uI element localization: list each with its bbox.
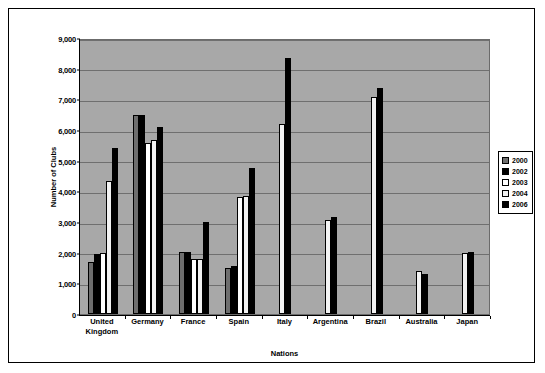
y-axis-tick-label: 0 (72, 311, 76, 320)
x-axis-category-brazil: Brazil (353, 317, 399, 327)
x-axis (79, 315, 490, 316)
chart-frame: Number of Clubs 01,0002,0003,0004,0005,0… (8, 8, 535, 363)
y-axis-tick-mark (77, 223, 80, 224)
bar-group-bars (400, 40, 446, 314)
bar-group (308, 40, 354, 314)
y-axis-tick-mark (77, 161, 80, 162)
plot-area (79, 39, 490, 315)
bar-group-bars (80, 40, 126, 314)
y-axis-tick-mark (77, 253, 80, 254)
legend-item-2006[interactable]: 2006 (502, 199, 528, 210)
bar-italy-2006 (285, 58, 291, 314)
chart-legend: 20002002200320042006 (498, 151, 533, 214)
x-axis-label: Nations (79, 349, 490, 358)
bar-group-bars (171, 40, 217, 314)
y-axis-tick-mark (77, 69, 80, 70)
x-axis-category-spain: Spain (216, 317, 262, 327)
legend-label-2002: 2002 (512, 168, 528, 175)
legend-swatch-2000 (502, 157, 509, 164)
y-axis-tick-label: 1,000 (58, 280, 76, 289)
x-axis-tick-mark (490, 316, 491, 319)
legend-item-2000[interactable]: 2000 (502, 155, 528, 166)
y-axis-tick-label: 2,000 (58, 249, 76, 258)
bar-group (126, 40, 172, 314)
legend-label-2003: 2003 (512, 179, 528, 186)
bar-germany-2006 (157, 127, 163, 314)
bar-group (80, 40, 126, 314)
legend-swatch-2006 (502, 201, 509, 208)
bar-group (354, 40, 400, 314)
y-axis-tick-mark (77, 100, 80, 101)
legend-label-2006: 2006 (512, 201, 528, 208)
legend-label-2000: 2000 (512, 157, 528, 164)
y-axis-tick-label: 6,000 (58, 127, 76, 136)
legend-label-2004: 2004 (512, 190, 528, 197)
bar-spain-2006 (249, 168, 255, 314)
bar-group-bars (263, 40, 309, 314)
legend-item-2003[interactable]: 2003 (502, 177, 528, 188)
y-axis-tick-mark (77, 131, 80, 132)
x-axis-category-united-kingdom: United Kingdom (79, 317, 125, 337)
y-axis-tick-label: 9,000 (58, 35, 76, 44)
y-axis-tick-mark (77, 39, 80, 40)
x-axis-category-argentina: Argentina (307, 317, 353, 327)
x-axis-category-germany: Germany (125, 317, 171, 327)
bar-brazil-2006 (377, 88, 383, 314)
y-axis-tick-label: 4,000 (58, 188, 76, 197)
y-axis-tick-label: 5,000 (58, 157, 76, 166)
bar-group-bars (308, 40, 354, 314)
y-axis-tick-mark (77, 284, 80, 285)
bar-argentina-2006 (331, 217, 337, 314)
bar-australia-2006 (422, 274, 428, 314)
legend-item-2004[interactable]: 2004 (502, 188, 528, 199)
x-axis-category-japan: Japan (444, 317, 490, 327)
bar-group-bars (217, 40, 263, 314)
bar-group (400, 40, 446, 314)
bar-group (217, 40, 263, 314)
x-axis-category-australia: Australia (399, 317, 445, 327)
x-axis-category-france: France (170, 317, 216, 327)
bar-group (263, 40, 309, 314)
bar-group-bars (445, 40, 491, 314)
bar-group-bars (354, 40, 400, 314)
legend-item-2002[interactable]: 2002 (502, 166, 528, 177)
y-axis-label: Number of Clubs (49, 147, 58, 207)
bar-france-2006 (203, 222, 209, 314)
y-axis-tick-label: 8,000 (58, 65, 76, 74)
y-axis-tick-label: 7,000 (58, 96, 76, 105)
legend-swatch-2002 (502, 168, 509, 175)
bar-group-bars (126, 40, 172, 314)
y-axis-tick-mark (77, 192, 80, 193)
y-axis-label-wrap: Number of Clubs (17, 39, 31, 315)
y-axis: 01,0002,0003,0004,0005,0006,0007,0008,00… (79, 39, 80, 315)
bar-group (445, 40, 491, 314)
y-axis-tick-label: 3,000 (58, 219, 76, 228)
x-axis-category-italy: Italy (262, 317, 308, 327)
bar-group (171, 40, 217, 314)
legend-swatch-2003 (502, 179, 509, 186)
legend-swatch-2004 (502, 190, 509, 197)
bar-united-kingdom-2006 (112, 148, 118, 314)
bar-japan-2006 (468, 252, 474, 314)
